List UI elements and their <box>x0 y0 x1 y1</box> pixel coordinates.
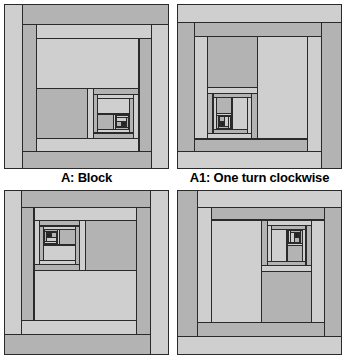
caption-block-a1: A1: One turn clockwise <box>172 170 346 185</box>
caption-block-a: A: Block <box>4 170 169 185</box>
block-a2 <box>4 190 169 355</box>
block-a1-canvas <box>177 4 342 169</box>
block-a-canvas <box>4 4 169 169</box>
log-cabin-figure: A: Block A1: One turn clockwise <box>0 0 346 362</box>
block-a1 <box>177 4 342 169</box>
block-a <box>4 4 169 169</box>
block-a3 <box>177 190 342 355</box>
block-a2-canvas <box>4 190 169 355</box>
block-a3-canvas <box>177 190 342 355</box>
